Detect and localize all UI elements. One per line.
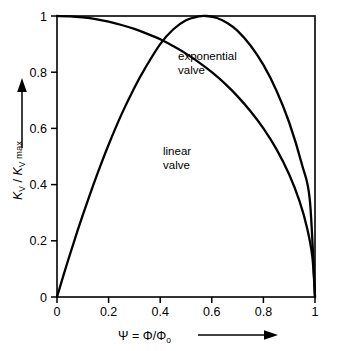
x-tick-label-3: 0.6 (203, 305, 220, 319)
x-axis-tick-labels: 0 0.2 0.4 0.6 0.8 1 (54, 305, 319, 319)
x-axis-title-phi: Φ (143, 329, 153, 343)
annotation-exponential-line1: exponential (178, 50, 237, 62)
x-tick-label-2: 0.4 (152, 305, 169, 319)
x-axis-title-psi: Ψ (118, 329, 128, 343)
x-axis-title-zero: o (166, 335, 171, 345)
x-axis-title: Ψ = Φ/Φo (118, 329, 171, 345)
chart-figure: 0 0.2 0.4 0.6 0.8 1 0 0.2 0.4 0.6 0.8 1 (0, 0, 344, 351)
y-tick-label-0: 0 (40, 291, 47, 305)
y-tick-label-1: 0.2 (30, 234, 47, 248)
x-axis-title-eq: = (132, 329, 139, 343)
chart-svg: 0 0.2 0.4 0.6 0.8 1 0 0.2 0.4 0.6 0.8 1 (0, 0, 344, 351)
svg-text:KV / KV max: KV / KV max (11, 141, 27, 200)
y-tick-label-2: 0.4 (30, 178, 47, 192)
x-axis-ticks (57, 297, 315, 303)
annotation-linear-line1: linear (163, 145, 191, 157)
x-tick-label-1: 0.2 (100, 305, 117, 319)
y-tick-label-5: 1 (40, 10, 47, 24)
y-axis-ticks (51, 16, 57, 297)
y-axis-tick-labels: 0 0.2 0.4 0.6 0.8 1 (30, 10, 47, 305)
x-tick-label-4: 0.8 (255, 305, 272, 319)
x-tick-label-5: 1 (312, 305, 319, 319)
annotation-exponential-line2: valve (178, 64, 205, 76)
x-axis-title-phi0: Φ (156, 329, 166, 343)
y-tick-label-4: 0.8 (30, 66, 47, 80)
x-axis-arrow-right-icon (198, 330, 278, 340)
y-tick-label-3: 0.6 (30, 122, 47, 136)
y-axis-arrow-up-icon (17, 78, 27, 148)
x-tick-label-0: 0 (54, 305, 61, 319)
annotation-linear-line2: valve (163, 159, 190, 171)
y-axis-title: KV / KV max (11, 141, 27, 200)
